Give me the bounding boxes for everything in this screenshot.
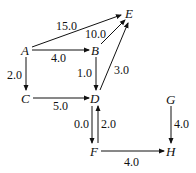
graph-diagram: 15.0 10.0 4.0 2.0 1.0 3.0 5.0 0.0 2.0 4.… bbox=[0, 0, 196, 173]
node-a: A bbox=[20, 43, 29, 58]
edge-label-a-c: 2.0 bbox=[7, 68, 22, 82]
node-f: F bbox=[89, 144, 99, 159]
edge-label-a-e: 15.0 bbox=[56, 19, 77, 33]
node-c: C bbox=[21, 91, 30, 106]
edge-label-g-h: 4.0 bbox=[174, 117, 189, 131]
edge-label-f-h: 4.0 bbox=[124, 155, 139, 169]
edge-label-b-e: 10.0 bbox=[85, 27, 106, 41]
edge-label-a-b: 4.0 bbox=[51, 51, 66, 65]
node-h: H bbox=[165, 144, 176, 159]
node-e: E bbox=[124, 6, 133, 21]
edge-label-b-d: 1.0 bbox=[77, 66, 92, 80]
edge-label-d-e: 3.0 bbox=[114, 63, 129, 77]
edge-label-d-f: 0.0 bbox=[74, 117, 89, 131]
node-d: D bbox=[89, 91, 100, 106]
edge-label-f-d: 2.0 bbox=[101, 117, 116, 131]
edge-label-c-d: 5.0 bbox=[53, 99, 68, 113]
node-g: G bbox=[166, 92, 176, 107]
node-b: B bbox=[91, 43, 99, 58]
